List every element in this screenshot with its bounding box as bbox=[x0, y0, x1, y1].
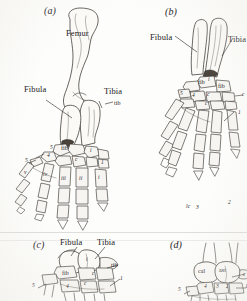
panel-a-label-tib: tib bbox=[114, 100, 121, 106]
panel-d-id: (d) bbox=[170, 240, 182, 250]
panel-b-label-tibia: Tibia bbox=[228, 35, 246, 44]
panel-c-label-fibula: Fibula bbox=[60, 238, 82, 247]
panel-a-label-fib: fib bbox=[61, 145, 68, 151]
figure-plate: .o{fill:none;stroke:#2a2723;stroke-width… bbox=[0, 0, 247, 301]
panel-d-label-ast: ast bbox=[219, 267, 226, 273]
panel-c-id: (c) bbox=[33, 240, 44, 250]
panel-a-label-5: 5 bbox=[25, 158, 28, 164]
panel-c-label-tib: tib bbox=[111, 262, 118, 268]
panel-a-label-1: 1 bbox=[101, 160, 104, 166]
panel-a-label-i: i bbox=[90, 148, 92, 154]
panel-c-label-1: 1 bbox=[120, 276, 123, 282]
panel-b-label-lc: lc bbox=[186, 204, 190, 210]
scan-artifact-line-upper bbox=[0, 232, 247, 233]
panel-b-label-i: i bbox=[208, 77, 210, 83]
panel-b-label-4: 4 bbox=[192, 93, 195, 99]
panel-a-tarsals bbox=[30, 144, 109, 168]
panel-a-label-fibula: Fibula bbox=[24, 85, 46, 94]
panel-c-label-fib: fib bbox=[62, 270, 69, 276]
panel-b-label-2: 2 bbox=[228, 200, 231, 206]
panel-c-label-4: 4 bbox=[66, 284, 69, 290]
panel-b-label-fib-left: fib bbox=[198, 79, 205, 85]
panel-b-label-1: 1 bbox=[238, 110, 241, 116]
panel-c-label-c-upper: c bbox=[92, 271, 95, 277]
panel-d-label-c: c bbox=[243, 272, 246, 278]
panel-c-art bbox=[42, 250, 118, 301]
panel-a-label-roman-iv: iv bbox=[43, 172, 47, 178]
panel-a-label-roman-iii: iii bbox=[61, 176, 66, 182]
panel-a-label-femur: Femur bbox=[66, 29, 89, 38]
panel-a-label-c: c bbox=[75, 157, 78, 163]
panel-d-label-4: 4 bbox=[204, 284, 207, 290]
panel-c-label-i: i bbox=[86, 257, 88, 263]
panel-c-label-tibia: Tibia bbox=[97, 238, 115, 247]
panel-b-label-3: 3 bbox=[196, 205, 199, 211]
panel-b-label-fib-right: fib bbox=[218, 83, 225, 89]
panel-a-label-f: 5 bbox=[50, 145, 53, 151]
panel-a-label-roman-ii: ii bbox=[79, 176, 82, 182]
panel-a-id: (a) bbox=[44, 6, 56, 16]
panel-a-label-roman-v: v bbox=[24, 170, 27, 176]
panel-b-label-c-upper: c bbox=[207, 92, 210, 98]
panel-b-digits bbox=[159, 99, 240, 180]
panel-b-label-5: 5 bbox=[180, 91, 183, 97]
panel-d-art bbox=[186, 243, 247, 301]
panel-c-label-c-lower: c bbox=[84, 281, 87, 287]
panel-c-label-5: 5 bbox=[32, 283, 35, 289]
panel-d-label-3: 3 bbox=[216, 284, 219, 290]
panel-b-label-c-lower: c bbox=[205, 101, 208, 107]
panel-d-label-1: 1 bbox=[245, 284, 247, 290]
panel-d-label-5: 5 bbox=[178, 287, 181, 293]
panel-a-label-tibia: Tibia bbox=[104, 87, 122, 96]
panel-a-label-4: 4 bbox=[47, 153, 50, 159]
panel-d-label-2: 2 bbox=[226, 284, 229, 290]
panel-a-digits bbox=[15, 162, 108, 230]
skeletal-line-art: .o{fill:none;stroke:#2a2723;stroke-width… bbox=[0, 0, 247, 301]
panel-a-label-roman-i: i bbox=[98, 175, 100, 181]
panel-b-label-c-right: c bbox=[242, 92, 245, 98]
panel-a-art bbox=[15, 8, 109, 230]
panel-b-label-fibula: Fibula bbox=[150, 33, 172, 42]
panel-d-label-cal: cal bbox=[198, 268, 205, 274]
panel-b-id: (b) bbox=[165, 7, 177, 17]
